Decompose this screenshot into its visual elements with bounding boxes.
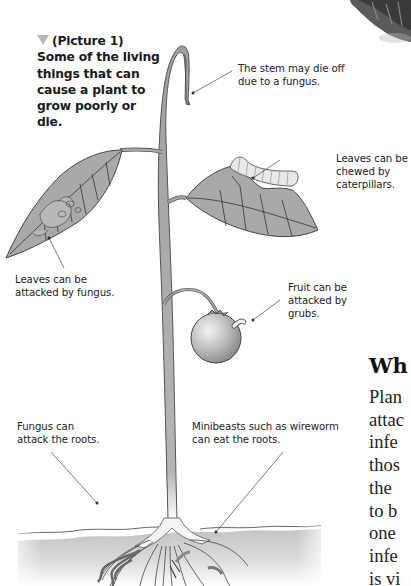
- triangle-down-icon: [37, 35, 49, 45]
- label-caterpillar: Leaves can be chewed by caterpillars.: [336, 152, 411, 191]
- soil: [18, 526, 321, 586]
- body-line: the: [369, 477, 404, 500]
- body-line: is vi: [369, 568, 404, 586]
- label-root-fungus: Fungus can attack the roots.: [17, 420, 107, 446]
- corner-leaf-photo: [350, 0, 411, 43]
- body-line: infe: [369, 545, 404, 568]
- body-line: Plan: [369, 386, 404, 409]
- figure-caption: (Picture 1) Some of the living things th…: [37, 33, 162, 131]
- label-wireworm: Minibeasts such as wireworm can eat the …: [192, 420, 352, 446]
- body-line: attac: [369, 409, 404, 432]
- body-line: thos: [369, 454, 404, 477]
- label-stem-fungus: The stem may die off due to a fungus.: [238, 62, 360, 88]
- fruit: [164, 290, 244, 363]
- article-heading: Wh: [369, 353, 408, 378]
- label-fruit-grubs: Fruit can be attacked by grubs.: [288, 281, 356, 320]
- body-line: to b: [369, 500, 404, 523]
- leaf-fungus: [6, 150, 162, 259]
- body-line: infe: [369, 431, 404, 454]
- leaf-caterpillar: [168, 157, 318, 236]
- article-body: Plan attac infe thos the to b one infe i…: [369, 386, 404, 586]
- body-line: one: [369, 522, 404, 545]
- label-leaf-fungus: Leaves can be attacked by fungus.: [15, 273, 125, 299]
